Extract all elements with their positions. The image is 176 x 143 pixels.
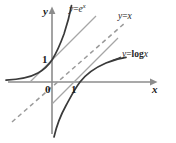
math-figure: y x 1 0 1 y=ex y=x y=logx [0, 0, 176, 143]
curve-label-identity-body: x [128, 11, 132, 21]
logarithm-curve [54, 57, 126, 137]
x-axis-label: x [152, 84, 158, 95]
x-tick-label-1: 1 [71, 84, 77, 95]
curve-label-logarithm: y=logx [122, 50, 148, 60]
curve-label-identity: y=x [118, 12, 132, 22]
curve-label-logarithm-fn: log [132, 49, 144, 59]
identity-line-dashed [12, 22, 126, 122]
exponential-curve [6, 6, 72, 81]
y-axis-arrow-icon [49, 7, 56, 15]
y-tick-label-1: 1 [42, 54, 48, 65]
graph-canvas [0, 0, 176, 143]
origin-label: 0 [45, 84, 51, 95]
curve-label-exponential: y=ex [69, 3, 86, 15]
curve-label-logarithm-arg: x [144, 49, 148, 59]
tangent-line-logarithm [52, 38, 118, 104]
curve-label-exponential-exponent: x [83, 2, 86, 9]
axes-group [8, 7, 158, 135]
y-axis-label: y [43, 6, 48, 17]
